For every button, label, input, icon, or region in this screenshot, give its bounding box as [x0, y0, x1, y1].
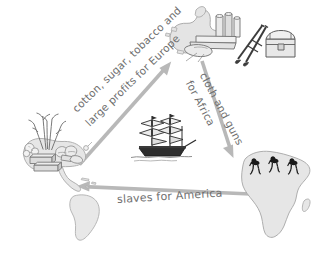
treasure-chest-icon: [266, 31, 295, 58]
americas-region: [23, 113, 99, 240]
europe-region: [165, 7, 295, 66]
africa-region: [242, 151, 310, 237]
sailing-ship-icon: [131, 114, 196, 161]
triangular-trade-diagram: cotton, sugar, tobacco and large profits…: [0, 0, 323, 254]
diagram-canvas: [0, 0, 323, 254]
